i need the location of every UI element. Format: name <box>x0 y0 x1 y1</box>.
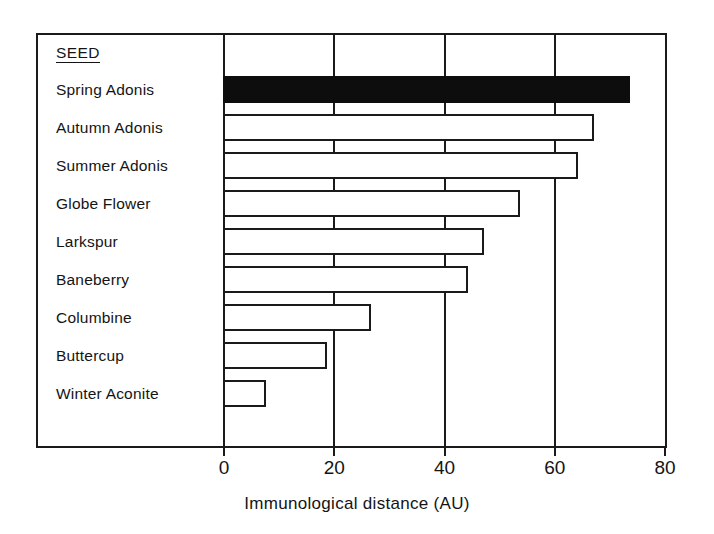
x-tick-label: 0 <box>194 457 254 479</box>
bars-layer: SEED Spring AdonisAutumn AdonisSummer Ad… <box>38 35 665 446</box>
bar <box>223 76 630 103</box>
x-tick-label: 40 <box>415 457 475 479</box>
x-tick-label: 80 <box>635 457 695 479</box>
bar-category-label: Summer Adonis <box>56 147 168 185</box>
bar-chart-figure: SEED Spring AdonisAutumn AdonisSummer Ad… <box>0 0 714 534</box>
plot-area-frame: SEED Spring AdonisAutumn AdonisSummer Ad… <box>36 33 667 448</box>
bar-category-label: Baneberry <box>56 261 129 299</box>
bar <box>223 152 578 179</box>
bar <box>223 266 468 293</box>
bar-row: Larkspur <box>38 223 665 261</box>
bar-row: Autumn Adonis <box>38 109 665 147</box>
seed-column-header: SEED <box>56 37 100 69</box>
bar-row: Buttercup <box>38 337 665 375</box>
x-tick-label: 60 <box>525 457 585 479</box>
bar-category-label: Autumn Adonis <box>56 109 163 147</box>
seed-header-label: SEED <box>56 44 100 63</box>
bar <box>223 190 520 217</box>
x-tick-mark <box>223 448 225 456</box>
x-axis-title: Immunological distance (AU) <box>0 494 714 514</box>
x-tick-label: 20 <box>304 457 364 479</box>
x-tick-mark <box>333 448 335 456</box>
bar-category-label: Winter Aconite <box>56 375 159 413</box>
bar-row: Spring Adonis <box>38 71 665 109</box>
bar <box>223 380 266 407</box>
bar-row: Columbine <box>38 299 665 337</box>
bar-category-label: Spring Adonis <box>56 71 154 109</box>
bar-category-label: Buttercup <box>56 337 124 375</box>
x-tick-mark <box>554 448 556 456</box>
bar-category-label: Columbine <box>56 299 132 337</box>
bar-category-label: Larkspur <box>56 223 118 261</box>
x-axis-ticks: 020406080 <box>36 448 667 488</box>
bar-row: Winter Aconite <box>38 375 665 413</box>
bar <box>223 228 484 255</box>
bar-row: Baneberry <box>38 261 665 299</box>
bar <box>223 342 327 369</box>
bar-row: Globe Flower <box>38 185 665 223</box>
bar-category-label: Globe Flower <box>56 185 151 223</box>
x-tick-mark <box>444 448 446 456</box>
bar-row: Summer Adonis <box>38 147 665 185</box>
x-tick-mark <box>664 448 666 456</box>
bar <box>223 304 371 331</box>
bar <box>223 114 594 141</box>
